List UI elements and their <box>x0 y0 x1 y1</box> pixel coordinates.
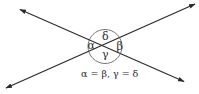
diagram-svg: δ γ α β α = β, γ = δ <box>0 0 199 94</box>
gamma-label: γ <box>102 48 109 61</box>
alpha-label: α <box>88 39 96 52</box>
equation-label: α = β, γ = δ <box>81 68 139 79</box>
beta-label: β <box>117 40 123 53</box>
vertical-angles-diagram: δ γ α β α = β, γ = δ <box>0 0 199 94</box>
delta-label: δ <box>102 30 109 43</box>
